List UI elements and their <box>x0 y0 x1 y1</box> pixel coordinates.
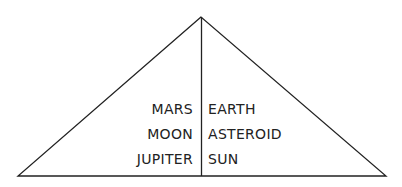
left-label-3: JUPITER <box>136 151 193 167</box>
right-label-1: EARTH <box>208 101 256 117</box>
left-label-1: MARS <box>152 101 193 117</box>
left-label-2: MOON <box>147 126 193 142</box>
right-label-3: SUN <box>208 151 239 167</box>
triangle-diagram: MARS MOON JUPITER EARTH ASTEROID SUN <box>0 0 402 187</box>
right-label-2: ASTEROID <box>208 126 282 142</box>
